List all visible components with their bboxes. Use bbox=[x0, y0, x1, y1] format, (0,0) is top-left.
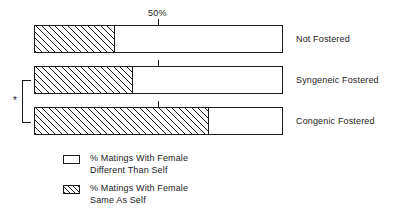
row-label-syngeneic-fostered: Syngeneic Fostered bbox=[296, 75, 379, 85]
significance-asterisk: * bbox=[13, 96, 17, 106]
legend-label-different-than-self-line2: Different Than Self bbox=[90, 165, 168, 175]
bar-not-fostered bbox=[34, 25, 283, 53]
significance-bracket bbox=[22, 80, 31, 123]
legend-label-different-than-self-line1: % Matings With Female bbox=[90, 153, 188, 163]
axis-tick-label-50: 50% bbox=[148, 8, 167, 18]
legend-swatch-different-than-self bbox=[63, 155, 80, 164]
stacked-bar-chart: 50% Not Fostered Syngeneic Fostered Cong… bbox=[0, 0, 403, 209]
row-label-congenic-fostered: Congenic Fostered bbox=[296, 116, 375, 126]
legend-label-same-as-self-line2: Same As Self bbox=[90, 195, 146, 205]
legend-label-same-as-self-line1: % Matings With Female bbox=[90, 183, 188, 193]
legend-swatch-same-as-self bbox=[63, 185, 80, 194]
bar-congenic-fostered bbox=[34, 107, 283, 135]
bar-segment-same-as-self-not-fostered bbox=[35, 26, 115, 52]
bar-segment-same-as-self-congenic-fostered bbox=[35, 108, 209, 134]
bar-syngeneic-fostered bbox=[34, 66, 283, 94]
bar-segment-same-as-self-syngeneic-fostered bbox=[35, 67, 133, 93]
row-label-not-fostered: Not Fostered bbox=[296, 34, 350, 44]
